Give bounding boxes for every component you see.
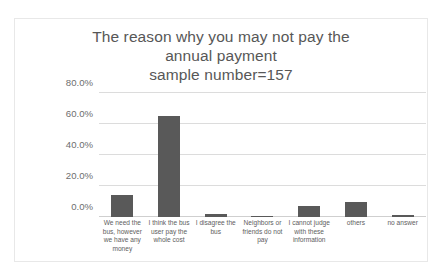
- chart-frame: The reason why you may not pay the annua…: [14, 18, 428, 262]
- bar[interactable]: [345, 202, 367, 217]
- y-axis-tick-label: 80.0%: [66, 77, 93, 88]
- bar-slot: [379, 93, 426, 217]
- bar-slot: [192, 93, 239, 217]
- bar[interactable]: [205, 214, 227, 217]
- bar[interactable]: [392, 215, 414, 217]
- y-axis-tick-label: 40.0%: [66, 139, 93, 150]
- x-axis-category-label: We need the bus, however we have any mon…: [99, 219, 146, 253]
- bar-slot: [146, 93, 193, 217]
- bar-slot: [286, 93, 333, 217]
- x-axis-category-label: Neighbors or friends do not pay: [239, 219, 286, 245]
- plot-area: 0.0%20.0%40.0%60.0%80.0%: [99, 93, 426, 217]
- y-axis-tick-label: 60.0%: [66, 108, 93, 119]
- y-axis-tick-label: 20.0%: [66, 170, 93, 181]
- bar[interactable]: [298, 206, 320, 217]
- bar[interactable]: [111, 195, 133, 217]
- x-axis-category-labels: We need the bus, however we have any mon…: [99, 219, 426, 263]
- y-axis-tick-label: 0.0%: [71, 201, 93, 212]
- bar-slot: [333, 93, 380, 217]
- x-axis-category-label: others: [333, 219, 380, 228]
- chart-title: The reason why you may not pay the annua…: [15, 27, 427, 84]
- bar[interactable]: [251, 216, 273, 217]
- bars-group: [99, 93, 426, 217]
- chart-title-line-1: The reason why you may not pay the: [15, 27, 427, 46]
- bar-slot: [239, 93, 286, 217]
- x-axis-category-label: I cannot judge with these information: [286, 219, 333, 245]
- bar[interactable]: [158, 116, 180, 217]
- x-axis-category-label: no answer: [379, 219, 426, 228]
- chart-title-line-2: annual payment: [15, 46, 427, 65]
- bar-slot: [99, 93, 146, 217]
- x-axis-category-label: I think the bus user pay the whole cost: [146, 219, 193, 245]
- x-axis-category-label: I disagree the bus: [192, 219, 239, 236]
